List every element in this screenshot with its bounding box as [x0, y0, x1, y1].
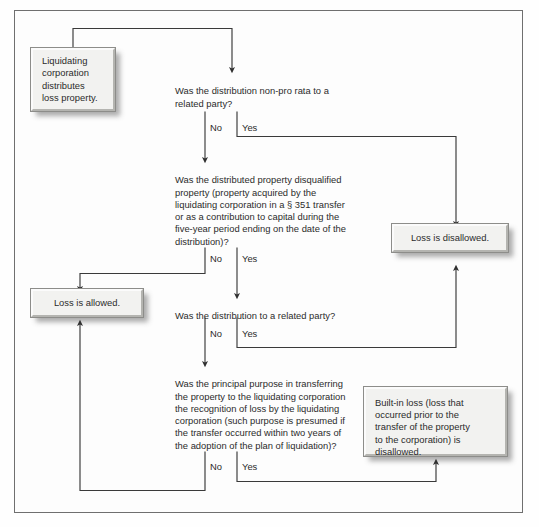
question-2-text: Was the distributed property disqualifie… [175, 162, 425, 248]
branch-label-q1-yes: Yes [242, 122, 257, 133]
loss-allowed-label: Loss is allowed. [54, 297, 120, 309]
loss-allowed-box: Loss is allowed. [31, 289, 143, 317]
question-2-label: Was the distributed property disqualifie… [175, 174, 346, 246]
q1-no-text: No [210, 122, 222, 133]
question-3-text: Was the distribution to a related party? [175, 298, 425, 323]
branch-label-q2-yes: Yes [242, 253, 257, 264]
flowchart-canvas: Liquidating corporation distributes loss… [0, 0, 539, 527]
q3-no-text: No [210, 328, 222, 339]
branch-label-q1-no: No [210, 122, 222, 133]
q2-no-text: No [210, 253, 222, 264]
question-3-label: Was the distribution to a related party? [175, 310, 335, 321]
start-box: Liquidating corporation distributes loss… [31, 48, 115, 111]
question-1-label: Was the distribution non-pro rata to a r… [175, 85, 329, 108]
start-box-label: Liquidating corporation distributes loss… [42, 55, 98, 104]
question-1-text: Was the distribution non-pro rata to a r… [175, 73, 425, 110]
question-4-label: Was the principal purpose in transferrin… [175, 378, 345, 450]
q1-yes-text: Yes [242, 122, 257, 133]
branch-label-q3-yes: Yes [242, 328, 257, 339]
branch-label-q4-no: No [210, 461, 222, 472]
branch-label-q4-yes: Yes [242, 461, 257, 472]
q4-no-text: No [210, 461, 222, 472]
branch-label-q3-no: No [210, 328, 222, 339]
question-4-text: Was the principal purpose in transferrin… [175, 366, 425, 452]
q3-yes-text: Yes [242, 328, 257, 339]
q4-yes-text: Yes [242, 461, 257, 472]
branch-label-q2-no: No [210, 253, 222, 264]
q2-yes-text: Yes [242, 253, 257, 264]
